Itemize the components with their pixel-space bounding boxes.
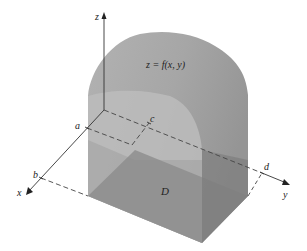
bound-d-label: d <box>264 161 270 172</box>
bound-a-label: a <box>75 120 80 131</box>
bound-c-label: c <box>150 113 155 124</box>
x-axis-label: x <box>16 187 22 198</box>
tick-d <box>260 172 264 174</box>
z-axis-label: z <box>94 11 99 22</box>
y-axis-arrow-icon <box>282 179 290 185</box>
box-right-face <box>202 150 248 243</box>
solid-under-surface-diagram: z x y a b c d z = f(x, y) D <box>0 0 307 251</box>
bound-b-label: b <box>33 169 38 180</box>
y-equals-d-line <box>248 173 262 196</box>
y-axis <box>262 173 284 182</box>
region-d-label: D <box>160 185 169 197</box>
y-axis-label: y <box>282 189 288 200</box>
x-equals-b-line <box>41 178 88 196</box>
surface-label: z = f(x, y) <box>145 59 186 71</box>
z-axis-arrow-icon <box>102 12 107 19</box>
